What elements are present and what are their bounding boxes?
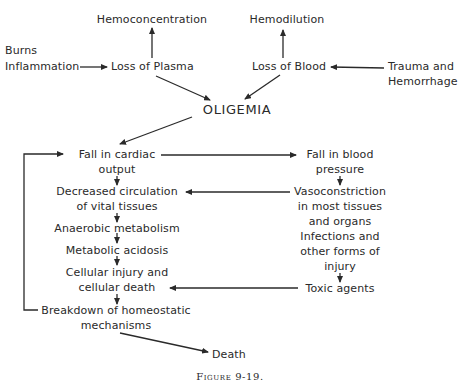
node-trauma-line2: Hemorrhage xyxy=(388,74,458,89)
node-cellular-line1: Cellular injury and xyxy=(66,265,169,280)
node-fall-bp-line1: Fall in blood xyxy=(307,147,374,162)
node-hemoconcentration: Hemoconcentration xyxy=(97,12,207,27)
arrow-trauma-to-blood xyxy=(331,67,384,68)
node-inflammation: Inflammation xyxy=(5,59,79,74)
node-hemodilution: Hemodilution xyxy=(250,12,325,27)
node-vaso-line3: and organs xyxy=(309,214,372,229)
node-loss-of-plasma: Loss of Plasma xyxy=(111,59,194,74)
arrow-blood-to-oligemia xyxy=(245,75,280,99)
node-death: Death xyxy=(212,347,246,362)
node-cellular-line2: cellular death xyxy=(79,280,156,295)
node-loss-of-blood: Loss of Blood xyxy=(252,59,326,74)
node-decreased-circ-line2: of vital tissues xyxy=(76,199,157,214)
arrow-plasma-to-oligemia xyxy=(156,76,210,100)
node-infections-line3: injury xyxy=(324,259,356,274)
arrow-breakdown-to-death xyxy=(120,333,208,352)
node-fall-bp-line2: pressure xyxy=(316,162,364,177)
node-fall-cardiac-line1: Fall in cardiac xyxy=(79,147,156,162)
node-acidosis: Metabolic acidosis xyxy=(66,243,169,258)
arrow-oligemia-to-cardiac xyxy=(120,117,192,144)
node-vaso-line2: in most tissues xyxy=(298,199,382,214)
node-infections-line1: Infections and xyxy=(300,229,379,244)
node-anaerobic: Anaerobic metabolism xyxy=(54,221,179,236)
node-toxic: Toxic agents xyxy=(305,281,374,296)
node-fall-cardiac-line2: output xyxy=(99,162,136,177)
node-infections-line2: other forms of xyxy=(300,244,380,259)
figure-caption: Figure 9-19. xyxy=(196,371,264,382)
node-decreased-circ-line1: Decreased circulation xyxy=(56,184,177,199)
node-oligemia: OLIGEMIA xyxy=(203,102,271,117)
node-burns: Burns xyxy=(5,43,37,58)
node-breakdown-line2: mechanisms xyxy=(81,318,151,333)
node-vaso-line1: Vasoconstriction xyxy=(294,184,386,199)
node-trauma-line1: Trauma and xyxy=(388,59,454,74)
node-breakdown-line1: Breakdown of homeostatic xyxy=(41,303,191,318)
